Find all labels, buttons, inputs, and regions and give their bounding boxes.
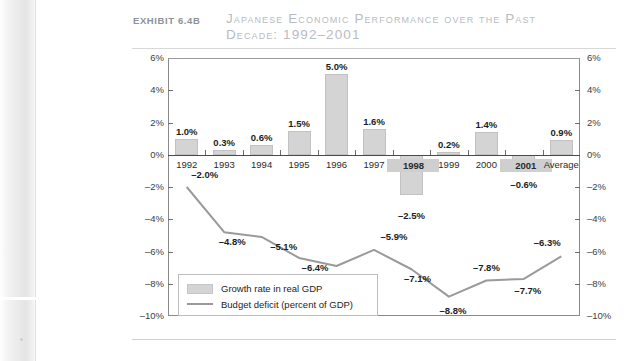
line-label-1998: –7.1%: [391, 273, 443, 284]
footer-divider: [132, 339, 616, 340]
line-label-1997: –5.9%: [368, 231, 420, 242]
exhibit-label: Exhibit 6.4b: [133, 15, 200, 26]
page-edge-gap: [0, 297, 36, 300]
page-edge-line: [35, 0, 36, 361]
page: Exhibit 6.4b Japanese Economic Performan…: [0, 0, 630, 361]
book-page-edge: [0, 0, 36, 361]
title-line-1: Japanese Economic Performance over the P…: [226, 11, 536, 26]
line-label-1994: –5.1%: [258, 241, 310, 252]
title-line-2: Decade: 1992–2001: [226, 27, 361, 42]
page-title: Japanese Economic Performance over the P…: [226, 11, 616, 43]
legend-swatch-bar: [187, 284, 213, 294]
line-label-1992: –2.0%: [179, 169, 231, 180]
legend-label-bar: Growth rate in real GDP: [221, 283, 322, 294]
line-label-2001: –7.7%: [502, 285, 554, 296]
line-label-1999: –8.8%: [427, 305, 479, 316]
chart-legend: Growth rate in real GDP Budget deficit (…: [178, 274, 378, 316]
legend-label-line: Budget deficit (percent of GDP): [221, 299, 353, 310]
page-edge-mark: [20, 338, 23, 341]
zero-baseline: [168, 155, 580, 156]
chart-figure: 6%4%2%0%–2%–4%–6%–8%–10% 6%4%2%0%–2%–4%–…: [132, 56, 616, 322]
line-label-Average: –6.3%: [521, 237, 573, 248]
line-label-1993: –4.8%: [206, 236, 258, 247]
line-label-2000: –7.8%: [460, 262, 512, 273]
header-divider: [132, 48, 616, 49]
legend-swatch-line: [187, 303, 213, 305]
